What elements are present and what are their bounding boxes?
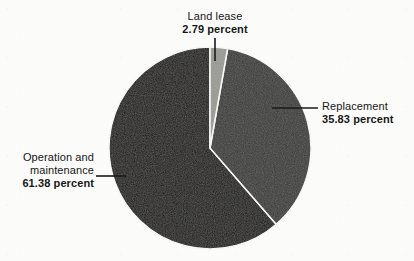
pie-label-land-lease-name: Land lease	[162, 10, 268, 23]
pie-label-operation-percent: 61.38 percent	[2, 177, 94, 190]
pie-label-operation-name-line1: Operation and	[2, 151, 94, 164]
pie-label-replacement: Replacement 35.83 percent	[322, 100, 394, 126]
pie-chart-figure: Land lease 2.79 percent Replacement 35.8…	[0, 0, 414, 261]
pie-chart-svg	[0, 0, 414, 261]
pie-label-replacement-percent: 35.83 percent	[322, 113, 394, 126]
pie-slices-group	[109, 47, 311, 249]
pie-label-land-lease: Land lease 2.79 percent	[162, 10, 268, 36]
pie-label-operation-and-maintenance: Operation and maintenance 61.38 percent	[2, 151, 94, 190]
pie-label-replacement-name: Replacement	[322, 100, 394, 113]
pie-label-land-lease-percent: 2.79 percent	[162, 23, 268, 36]
pie-label-operation-name-line2: maintenance	[2, 164, 94, 177]
